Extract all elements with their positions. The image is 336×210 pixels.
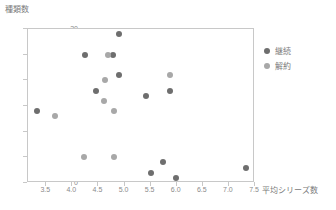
data-point: [81, 154, 87, 160]
data-point: [101, 98, 107, 104]
data-point: [111, 108, 117, 114]
data-point: [148, 170, 154, 176]
legend-marker-icon: [264, 63, 270, 69]
data-point: [143, 93, 149, 99]
legend-item-label: 継続: [275, 45, 291, 56]
legend-item-label: 解約: [275, 60, 291, 71]
x-axis-tick-mark: [45, 182, 46, 186]
y-axis-title: 種類数: [5, 3, 29, 14]
legend-marker-icon: [264, 48, 270, 54]
data-point: [82, 52, 88, 58]
x-axis-tick-mark: [124, 182, 125, 186]
data-point: [52, 113, 58, 119]
data-point: [34, 108, 40, 114]
data-point: [93, 88, 99, 94]
data-point: [105, 52, 111, 58]
data-point: [111, 154, 117, 160]
scatter-chart: 種類数 0510152025303.54.04.55.05.56.06.57.0…: [0, 0, 336, 210]
data-point: [167, 88, 173, 94]
data-point: [116, 72, 122, 78]
data-point: [173, 175, 179, 181]
legend-item[interactable]: 解約: [264, 59, 291, 72]
x-axis-tick-mark: [228, 182, 229, 186]
data-point: [116, 31, 122, 37]
plot-area: [27, 28, 254, 182]
x-axis-title: 平均シリーズ数: [262, 184, 318, 195]
data-point: [167, 72, 173, 78]
data-point: [243, 165, 249, 171]
x-axis-tick-mark: [176, 182, 177, 186]
data-point: [160, 159, 166, 165]
x-axis-tick-mark: [254, 182, 255, 186]
data-point: [102, 77, 108, 83]
legend: 継続解約: [264, 44, 291, 74]
data-point: [110, 52, 116, 58]
y-axis-tick-mark: [23, 182, 27, 183]
x-axis-tick-mark: [97, 182, 98, 186]
legend-item[interactable]: 継続: [264, 44, 291, 57]
x-axis-tick-mark: [71, 182, 72, 186]
x-axis-tick-mark: [150, 182, 151, 186]
x-axis-tick-mark: [202, 182, 203, 186]
